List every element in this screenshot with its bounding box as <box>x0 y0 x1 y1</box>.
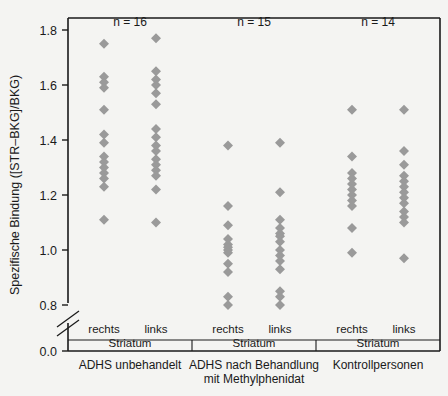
scatter-plot: 0.00.81.01.21.41.61.8Spezifische Bindung… <box>0 0 448 396</box>
y-tick-label: 0.8 <box>40 299 57 313</box>
column-side-label: links <box>144 323 167 335</box>
data-point-marker <box>347 223 357 233</box>
y-tick-label: 1.4 <box>40 134 57 148</box>
data-point-marker <box>99 105 109 115</box>
chart-container: 0.00.81.01.21.41.61.8Spezifische Bindung… <box>0 0 448 396</box>
data-point-marker <box>399 105 409 115</box>
column-region-label: Striatum <box>233 337 276 349</box>
data-point-marker <box>347 105 357 115</box>
column-region-label: Striatum <box>357 337 400 349</box>
column-side-label: rechts <box>336 323 368 335</box>
data-point-marker <box>151 218 161 228</box>
group-sample-size-label: n = 15 <box>237 15 271 29</box>
group-sample-size-label: n = 14 <box>361 15 395 29</box>
data-point-marker <box>347 201 357 211</box>
data-point-marker <box>223 141 233 151</box>
group-sample-size-label: n = 16 <box>113 15 147 29</box>
data-point-marker <box>99 83 109 93</box>
column-side-label: rechts <box>212 323 244 335</box>
group-label-line2: mit Methylphenidat <box>204 372 305 386</box>
data-point-marker <box>99 138 109 148</box>
y-tick-label: 1.8 <box>40 24 57 38</box>
data-point-marker <box>399 160 409 170</box>
y-tick-label: 0.0 <box>40 345 57 359</box>
y-tick-label: 1.0 <box>40 244 57 258</box>
data-point-marker <box>223 201 233 211</box>
data-point-marker <box>151 33 161 43</box>
data-point-marker <box>275 138 285 148</box>
data-point-marker <box>347 248 357 258</box>
data-point-marker <box>399 218 409 228</box>
data-point-marker <box>399 146 409 156</box>
group-label: Kontrollpersonen <box>333 358 424 372</box>
data-point-marker <box>275 264 285 274</box>
data-point-marker <box>275 187 285 197</box>
data-point-marker <box>151 185 161 195</box>
y-axis-title: Spezifische Bindung ([STR–BKG]/BKG) <box>8 75 22 295</box>
group-label: ADHS nach Behandlung <box>189 358 319 372</box>
column-side-label: links <box>392 323 415 335</box>
y-tick-label: 1.6 <box>40 79 57 93</box>
data-point-marker <box>99 182 109 192</box>
column-region-label: Striatum <box>109 337 152 349</box>
data-point-marker <box>275 300 285 310</box>
data-point-marker <box>399 253 409 263</box>
column-side-label: rechts <box>88 323 120 335</box>
data-point-marker <box>223 300 233 310</box>
data-point-marker <box>99 39 109 49</box>
y-tick-label: 1.2 <box>40 189 57 203</box>
data-point-marker <box>223 220 233 230</box>
data-point-marker <box>151 88 161 98</box>
column-side-label: links <box>268 323 291 335</box>
data-point-marker <box>151 99 161 109</box>
data-point-marker <box>223 267 233 277</box>
group-label: ADHS unbehandelt <box>79 358 182 372</box>
data-point-marker <box>99 215 109 225</box>
data-point-marker <box>347 152 357 162</box>
data-point-marker <box>151 171 161 181</box>
